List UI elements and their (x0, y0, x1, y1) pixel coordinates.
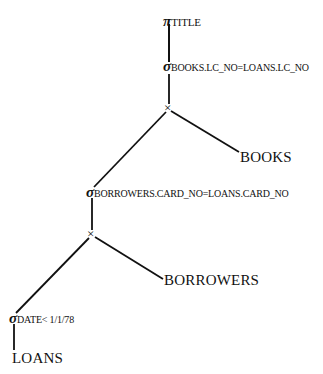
select3-cond: DATE< 1/1/78 (17, 314, 74, 325)
edge-product2-borrowers (95, 237, 163, 279)
edge-product1-books (171, 111, 239, 152)
product2-node: × (87, 227, 94, 240)
product1-node: × (164, 101, 171, 114)
select1-symbol: σ (163, 58, 171, 74)
project-node: πTITLE (163, 13, 201, 29)
select2-cond: BORROWERS.CARD_NO=LOANS.CARD_NO (94, 188, 288, 199)
edge-product1-select2 (94, 112, 166, 187)
select1-node: σBOOKS.LC_NO=LOANS.LC_NO (163, 58, 309, 74)
edge-product2-select3 (16, 238, 89, 313)
select1-cond: BOOKS.LC_NO=LOANS.LC_NO (171, 62, 309, 73)
borrowers-relation: BORROWERS (164, 273, 259, 288)
select3-node: σDATE< 1/1/78 (9, 310, 74, 326)
select2-node: σBORROWERS.CARD_NO=LOANS.CARD_NO (86, 184, 289, 200)
project-symbol: π (163, 13, 171, 29)
books-relation: BOOKS (240, 150, 292, 165)
select2-symbol: σ (86, 184, 94, 200)
select3-symbol: σ (9, 310, 17, 326)
project-attr: TITLE (171, 16, 201, 28)
loans-relation: LOANS (12, 351, 63, 366)
